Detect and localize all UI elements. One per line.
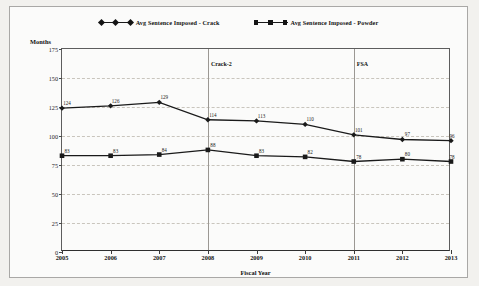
- data-point-marker: [302, 122, 307, 127]
- legend-label-crack: Avg Sentence Imposed - Crack: [136, 19, 220, 26]
- data-point-marker: [60, 153, 65, 158]
- data-point-marker: [448, 138, 453, 143]
- chart-frame: Avg Sentence Imposed - Crack Avg Sentenc…: [9, 6, 468, 278]
- x-tick-label: 2012: [396, 254, 409, 261]
- y-tick-label: 175: [49, 46, 58, 53]
- plot-area: 0255075100125150175 20052006200720082009…: [61, 48, 450, 251]
- x-tick-label: 2007: [153, 254, 166, 261]
- x-tick-label: 2006: [104, 254, 117, 261]
- data-point-marker: [108, 103, 113, 108]
- data-point-label: 78: [449, 154, 454, 160]
- data-point-label: 101: [355, 127, 363, 133]
- data-point-label: 83: [64, 148, 69, 154]
- data-point-marker: [205, 117, 210, 122]
- data-point-marker: [254, 153, 259, 158]
- x-tick-label: 2011: [348, 254, 360, 261]
- data-point-marker: [108, 153, 113, 158]
- data-point-label: 83: [259, 148, 264, 154]
- data-point-marker: [254, 118, 259, 123]
- y-tick-label: 25: [52, 220, 58, 227]
- data-point-label: 96: [449, 133, 454, 139]
- x-tick-label: 2005: [56, 254, 69, 261]
- data-point-marker: [351, 159, 356, 164]
- y-axis-title: Months: [30, 38, 51, 45]
- legend-item-powder: Avg Sentence Imposed - Powder: [254, 19, 379, 26]
- data-point-label: 114: [209, 112, 216, 118]
- data-point-label: 129: [160, 94, 168, 100]
- data-point-marker: [157, 152, 162, 157]
- y-tick-label: 100: [49, 133, 58, 140]
- legend-label-powder: Avg Sentence Imposed - Powder: [291, 19, 379, 26]
- data-point-marker: [400, 137, 405, 142]
- data-point-label: 113: [258, 113, 265, 119]
- x-axis-title: Fiscal Year: [61, 269, 450, 276]
- data-point-label: 124: [63, 100, 71, 106]
- data-point-marker: [351, 132, 356, 137]
- data-point-label: 82: [308, 149, 313, 155]
- data-point-label: 110: [306, 116, 313, 122]
- data-point-label: 84: [162, 147, 167, 153]
- y-tick-label: 50: [52, 191, 58, 198]
- data-point-label: 78: [356, 154, 361, 160]
- square-marker-icon: [254, 19, 288, 26]
- diamond-marker-icon: [99, 19, 133, 26]
- data-point-label: 83: [113, 148, 118, 154]
- data-point-label: 88: [210, 142, 215, 148]
- y-tick-label: 150: [49, 75, 58, 82]
- y-tick-label: 75: [52, 162, 58, 169]
- data-point-label: 97: [405, 131, 410, 137]
- data-point-label: 126: [112, 98, 120, 104]
- x-tick-label: 2013: [445, 254, 458, 261]
- data-point-label: 80: [405, 151, 410, 157]
- data-point-marker: [157, 100, 162, 105]
- data-point-marker: [303, 155, 308, 160]
- series-lines: [62, 49, 451, 252]
- legend-item-crack: Avg Sentence Imposed - Crack: [99, 19, 220, 26]
- chart-legend: Avg Sentence Imposed - Crack Avg Sentenc…: [10, 19, 467, 26]
- data-point-marker: [400, 157, 405, 162]
- y-tick-label: 125: [49, 104, 58, 111]
- data-point-marker: [449, 159, 454, 164]
- x-tick-label: 2009: [250, 254, 263, 261]
- x-tick-mark: [451, 250, 452, 254]
- x-tick-label: 2008: [202, 254, 215, 261]
- x-tick-label: 2010: [299, 254, 312, 261]
- data-point-marker: [206, 148, 211, 153]
